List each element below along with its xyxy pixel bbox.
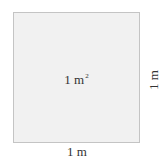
bottom-length-label: 1 m [13, 145, 141, 159]
side-length-label: 1 m [146, 67, 162, 93]
area-exponent: 2 [85, 72, 89, 80]
area-label: 1 m2 [14, 72, 139, 88]
unit-square: 1 m2 [13, 12, 140, 143]
area-value: 1 m [64, 72, 84, 87]
